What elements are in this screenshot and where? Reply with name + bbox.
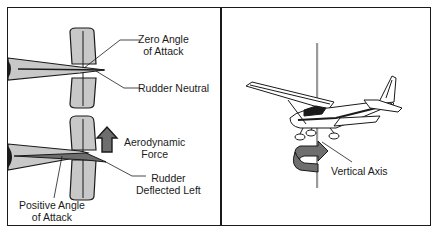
label-line: of Attack bbox=[138, 45, 189, 57]
label-line: Deflected Left bbox=[136, 184, 201, 196]
label-vertical-axis: Vertical Axis bbox=[331, 165, 388, 177]
label-line: Aerodynamic bbox=[124, 136, 185, 148]
label-line: Zero Angle bbox=[138, 33, 189, 45]
label-line: of Attack bbox=[19, 211, 85, 223]
label-aerodynamic-force: Aerodynamic Force bbox=[124, 136, 185, 160]
label-line: Rudder bbox=[136, 172, 201, 184]
label-rudder-neutral: Rudder Neutral bbox=[138, 82, 209, 94]
yaw-rotation-arrow-icon bbox=[293, 141, 328, 172]
label-rudder-deflected-left: Rudder Deflected Left bbox=[136, 172, 201, 196]
leader-lines-bottom bbox=[54, 156, 146, 198]
airplane-illustration bbox=[246, 76, 402, 140]
aerodynamic-force-arrow-icon bbox=[97, 127, 117, 152]
label-line: Positive Angle bbox=[19, 199, 85, 211]
label-positive-angle-of-attack: Positive Angle of Attack bbox=[19, 199, 85, 223]
label-zero-angle-of-attack: Zero Angle of Attack bbox=[138, 33, 189, 57]
label-line: Force bbox=[124, 148, 185, 160]
